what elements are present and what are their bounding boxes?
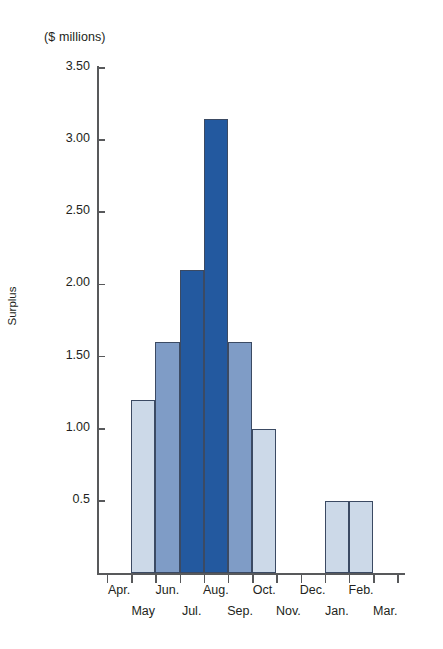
bar-jan [325, 501, 349, 573]
x-axis-label-feb: Feb. [349, 583, 374, 597]
x-tick-mark [252, 574, 253, 583]
y-tick-label: 3.00 [28, 131, 90, 145]
y-tick-label: 2.00 [28, 275, 90, 289]
x-axis-label-oct: Oct. [253, 583, 276, 597]
x-tick-mark [397, 574, 398, 583]
x-axis-label-nov: Nov. [276, 604, 301, 618]
bar-jul [180, 270, 204, 573]
x-axis-label-jul: Jul. [182, 604, 201, 618]
x-axis-label-sep: Sep. [227, 604, 253, 618]
y-tick-mark [97, 139, 105, 141]
y-tick-mark [97, 284, 105, 286]
y-axis-title: Surplus [6, 276, 18, 336]
bar-feb [349, 501, 373, 573]
y-tick-mark [97, 356, 105, 358]
x-tick-mark [180, 574, 181, 583]
x-tick-mark [131, 574, 132, 583]
bar-sep [228, 342, 252, 573]
x-tick-mark [155, 574, 156, 583]
x-axis-label-jan: Jan. [325, 604, 349, 618]
x-tick-mark [204, 574, 205, 583]
x-axis-label-dec: Dec. [300, 583, 326, 597]
y-tick-mark [97, 428, 105, 430]
bar-may [131, 400, 155, 573]
surplus-bar-chart: ($ millions) Surplus 3.503.002.502.001.5… [0, 0, 443, 649]
y-tick-mark [97, 500, 105, 502]
x-axis-label-jun: Jun. [156, 583, 180, 597]
x-axis-line [97, 573, 405, 575]
x-tick-mark [107, 574, 108, 583]
x-axis-label-aug: Aug. [203, 583, 229, 597]
y-axis-line [97, 66, 99, 575]
y-tick-label: 0.5 [28, 492, 90, 506]
x-tick-mark [228, 574, 229, 583]
x-axis-label-apr: Apr. [108, 583, 130, 597]
x-axis-label-may: May [131, 604, 155, 618]
bar-aug [204, 119, 228, 574]
x-tick-mark [276, 574, 277, 583]
y-tick-mark [97, 211, 105, 213]
x-axis-label-mar: Mar. [373, 604, 397, 618]
x-tick-mark [301, 574, 302, 583]
y-tick-label: 1.00 [28, 420, 90, 434]
y-tick-label: 2.50 [28, 203, 90, 217]
x-tick-mark [373, 574, 374, 583]
bar-jun [155, 342, 179, 573]
x-tick-mark [349, 574, 350, 583]
y-tick-label: 3.50 [28, 59, 90, 73]
bar-oct [252, 429, 276, 573]
y-tick-label: 1.50 [28, 348, 90, 362]
y-tick-mark [97, 67, 105, 69]
units-label: ($ millions) [44, 30, 106, 44]
x-tick-mark [325, 574, 326, 583]
